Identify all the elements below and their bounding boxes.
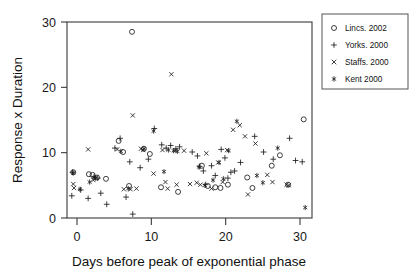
data-point-cross bbox=[188, 182, 192, 186]
data-point-cross bbox=[270, 180, 274, 184]
data-point-cross bbox=[86, 147, 90, 151]
data-point-plus bbox=[287, 135, 293, 141]
data-point-circle bbox=[225, 182, 230, 187]
data-point-plus bbox=[232, 168, 238, 174]
data-point-cross bbox=[163, 180, 167, 184]
data-point-circle bbox=[250, 185, 255, 190]
data-point-plus bbox=[228, 169, 234, 175]
data-point-cross bbox=[246, 192, 250, 196]
series-staffs-2000 bbox=[71, 72, 291, 196]
data-point-cross bbox=[160, 148, 164, 152]
x-tick-label: 30 bbox=[293, 230, 307, 244]
data-point-circle bbox=[269, 163, 274, 168]
data-point-star bbox=[255, 173, 259, 178]
scatter-plot-figure: 0102030 0102030 Response x Duration Days… bbox=[0, 0, 413, 274]
data-point-star bbox=[211, 178, 215, 183]
legend-label: Yorks. 2000 bbox=[345, 41, 388, 50]
data-point-plus bbox=[123, 194, 129, 200]
data-point-circle bbox=[245, 175, 250, 180]
data-point-cross bbox=[169, 72, 173, 76]
data-point-cross bbox=[238, 123, 242, 127]
data-point-plus bbox=[195, 153, 201, 159]
data-point-cross bbox=[265, 173, 269, 177]
data-point-plus bbox=[189, 149, 195, 155]
data-point-star bbox=[221, 176, 225, 181]
data-point-cross bbox=[216, 160, 220, 164]
data-point-cross bbox=[151, 171, 155, 175]
data-point-star bbox=[197, 164, 201, 169]
data-point-plus bbox=[69, 193, 75, 199]
data-point-plus bbox=[252, 133, 258, 139]
data-point-star bbox=[78, 187, 82, 192]
data-point-circle bbox=[213, 185, 218, 190]
data-point-cross bbox=[122, 187, 126, 191]
data-point-cross bbox=[174, 183, 178, 187]
data-point-circle bbox=[301, 117, 306, 122]
data-point-star bbox=[152, 129, 156, 134]
data-point-cross bbox=[204, 151, 208, 155]
y-tick-label: 30 bbox=[42, 16, 56, 30]
data-point-plus bbox=[218, 147, 224, 153]
data-point-cross bbox=[71, 182, 75, 186]
data-point-plus bbox=[293, 158, 299, 164]
series-yorks-2000 bbox=[69, 126, 305, 217]
data-point-circle bbox=[130, 29, 135, 34]
legend-label: Kent 2000 bbox=[345, 75, 383, 84]
data-point-star bbox=[303, 205, 307, 210]
data-point-cross bbox=[182, 149, 186, 153]
data-point-plus bbox=[117, 135, 123, 141]
y-tick-label: 0 bbox=[49, 212, 56, 226]
data-point-cross bbox=[243, 134, 247, 138]
data-point-circle bbox=[158, 185, 163, 190]
data-point-plus bbox=[159, 142, 165, 148]
data-point-cross bbox=[134, 186, 138, 190]
series-lincs-2002 bbox=[71, 29, 306, 194]
data-point-cross bbox=[221, 180, 225, 184]
y-axis-ticks: 0102030 bbox=[42, 16, 67, 226]
series-kent-2000 bbox=[71, 119, 307, 210]
data-point-cross bbox=[166, 186, 170, 190]
data-point-circle bbox=[147, 151, 152, 156]
data-point-plus bbox=[238, 160, 244, 166]
data-point-plus bbox=[145, 156, 151, 162]
legend-label: Staffs. 2000 bbox=[345, 58, 389, 67]
data-point-plus bbox=[104, 201, 110, 207]
data-point-plus bbox=[98, 190, 104, 196]
data-point-star bbox=[261, 180, 265, 185]
data-point-plus bbox=[261, 149, 267, 155]
data-point-plus bbox=[137, 165, 143, 171]
data-point-cross bbox=[72, 186, 76, 190]
x-axis-ticks: 0102030 bbox=[74, 218, 307, 244]
data-point-cross bbox=[253, 141, 257, 145]
data-point-plus bbox=[85, 196, 91, 202]
legend: Lincs. 2002Yorks. 2000Staffs. 2000Kent 2… bbox=[322, 14, 408, 89]
x-tick-label: 20 bbox=[219, 230, 233, 244]
y-tick-label: 10 bbox=[42, 146, 56, 160]
data-point-star bbox=[162, 169, 166, 174]
data-point-plus bbox=[130, 211, 136, 217]
data-point-plus bbox=[299, 159, 305, 165]
plot-frame bbox=[67, 22, 312, 218]
y-axis-title: Response x Duration bbox=[10, 57, 25, 183]
data-point-plus bbox=[200, 168, 206, 174]
legend-label: Lincs. 2002 bbox=[345, 24, 387, 33]
data-point-circle bbox=[218, 185, 223, 190]
data-point-circle bbox=[277, 153, 282, 158]
x-axis-title: Days before peak of exponential phase bbox=[72, 254, 306, 269]
plot-canvas: 0102030 0102030 Response x Duration Days… bbox=[0, 0, 413, 274]
x-tick-label: 10 bbox=[144, 230, 158, 244]
data-point-plus bbox=[209, 163, 215, 169]
data-point-plus bbox=[222, 155, 228, 161]
data-point-star bbox=[276, 145, 280, 150]
data-point-circle bbox=[103, 176, 108, 181]
data-point-plus bbox=[225, 175, 231, 181]
x-tick-label: 0 bbox=[74, 230, 81, 244]
data-point-circle bbox=[176, 189, 181, 194]
data-point-cross bbox=[131, 113, 135, 117]
data-point-cross bbox=[231, 128, 235, 132]
y-tick-label: 20 bbox=[42, 81, 56, 95]
data-point-plus bbox=[127, 159, 133, 165]
data-point-plus bbox=[270, 156, 276, 162]
data-points-layer bbox=[69, 29, 307, 217]
